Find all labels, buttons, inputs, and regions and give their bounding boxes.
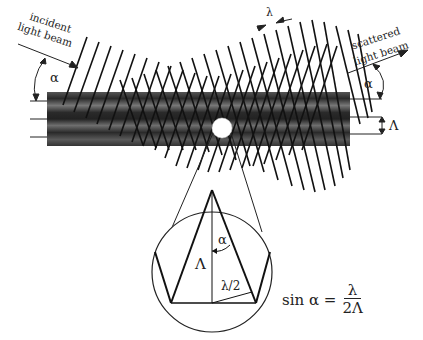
- fringe-spacing-label: Λ: [389, 118, 398, 133]
- formula-denominator: 2Λ: [342, 299, 362, 317]
- wavelength-label: λ: [266, 6, 273, 19]
- right-angle-arc: [373, 64, 384, 99]
- inset-half-wavelength-label: λ/2: [221, 279, 240, 293]
- left-angle-arc: [33, 58, 46, 101]
- bragg-formula: sin α = λ 2Λ: [282, 282, 363, 317]
- formula-numerator: λ: [344, 282, 362, 299]
- scattering-particle: [212, 118, 232, 138]
- fringe-spacing-dimension: [379, 117, 385, 134]
- formula-lhs: sin α =: [282, 291, 336, 309]
- left-reference-lines: [30, 101, 47, 137]
- inset-angle-label: α: [218, 232, 227, 247]
- inset-spacing-label: Λ: [195, 255, 206, 273]
- angle-alpha-left: α: [50, 70, 59, 85]
- wavelength-dimension: [257, 17, 292, 31]
- formula-fraction: λ 2Λ: [342, 282, 362, 317]
- angle-alpha-right: α: [364, 76, 373, 91]
- inset-magnifier: [152, 190, 272, 332]
